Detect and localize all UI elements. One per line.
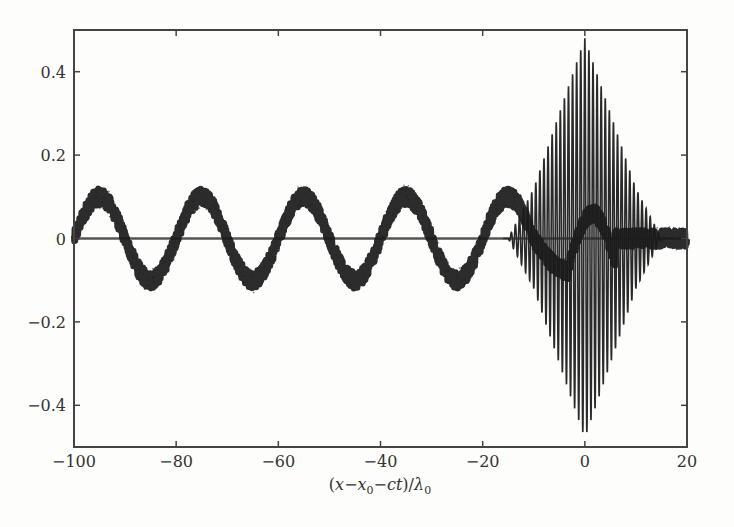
noise-dot [525, 223, 527, 225]
noise-dot [188, 220, 190, 222]
noise-dot [165, 262, 167, 264]
noise-dot [395, 199, 397, 201]
noise-dot [371, 260, 373, 262]
noise-dot [567, 262, 569, 264]
noise-dot [502, 204, 504, 206]
noise-dot [235, 267, 237, 269]
noise-dot [300, 205, 302, 207]
noise-dot [605, 236, 607, 238]
noise-dot [284, 218, 286, 220]
noise-dot [155, 281, 157, 283]
noise-dot [520, 203, 522, 205]
noise-dot [179, 225, 181, 227]
noise-dot [646, 235, 648, 237]
noise-dot [185, 209, 187, 211]
noise-dot [169, 260, 171, 262]
noise-dot [209, 208, 211, 210]
noise-dot [328, 232, 330, 234]
noise-dot [634, 229, 636, 231]
noise-dot [197, 192, 199, 194]
noise-dot [264, 266, 266, 268]
noise-dot [505, 206, 507, 208]
noise-dot [444, 259, 446, 261]
noise-dot [474, 248, 476, 250]
noise-dot [654, 235, 656, 237]
noise-dot [542, 253, 544, 255]
noise-dot [280, 239, 282, 241]
noise-dot [180, 223, 182, 225]
noise-dot [222, 224, 224, 226]
noise-dot [300, 201, 302, 203]
noise-dot [486, 220, 488, 222]
noise-dot [408, 185, 410, 187]
noise-dot [309, 190, 311, 192]
noise-dot [108, 191, 110, 193]
noise-dot [499, 191, 501, 193]
x-tick-label: −100 [52, 452, 96, 471]
noise-dot [604, 223, 606, 225]
noise-dot [595, 208, 597, 210]
noise-dot [478, 240, 480, 242]
noise-dot [476, 256, 478, 258]
noise-dot [253, 277, 255, 279]
noise-dot [257, 281, 259, 283]
noise-dot [342, 270, 344, 272]
noise-dot [557, 274, 559, 276]
noise-dot [324, 234, 326, 236]
noise-dot [233, 260, 235, 262]
noise-dot [243, 282, 245, 284]
noise-dot [408, 199, 410, 201]
noise-dot [603, 239, 605, 241]
noise-dot [480, 237, 482, 239]
noise-dot [586, 226, 588, 228]
noise-dot [595, 225, 597, 227]
noise-dot [564, 269, 566, 271]
noise-dot [548, 259, 550, 261]
noise-dot [285, 223, 287, 225]
noise-dot [593, 209, 595, 211]
noise-dot [558, 264, 560, 266]
noise-dot [592, 208, 594, 210]
noise-dot [171, 238, 173, 240]
noise-dot [229, 254, 231, 256]
noise-dot [234, 246, 236, 248]
noise-dot [441, 252, 443, 254]
noise-dot [383, 219, 385, 221]
noise-dot [193, 200, 195, 202]
noise-dot [148, 285, 150, 287]
noise-dot [220, 225, 222, 227]
noise-dot [554, 274, 556, 276]
noise-dot [275, 238, 277, 240]
noise-dot [479, 246, 481, 248]
noise-dot [641, 242, 643, 244]
noise-dot [635, 249, 637, 251]
noise-dot [637, 245, 639, 247]
noise-dot [488, 216, 490, 218]
noise-dot [515, 208, 517, 210]
noise-dot [511, 202, 513, 204]
plot-series [74, 38, 687, 432]
noise-dot [347, 281, 349, 283]
noise-dot [537, 255, 539, 257]
noise-dot [588, 225, 590, 227]
noise-dot [598, 225, 600, 227]
noise-dot [78, 232, 80, 234]
noise-dot [663, 240, 665, 242]
noise-dot [205, 201, 207, 203]
noise-dot [361, 266, 363, 268]
noise-dot [309, 210, 311, 212]
noise-dot [309, 205, 311, 207]
noise-dot [124, 241, 126, 243]
noise-dot [619, 247, 621, 249]
noise-dot [302, 205, 304, 207]
noise-dot [362, 264, 364, 266]
noise-dot [396, 204, 398, 206]
noise-dot [478, 236, 480, 238]
noise-dot [639, 241, 641, 243]
noise-dot [240, 272, 242, 274]
noise-dot [623, 234, 625, 236]
noise-dot [572, 247, 574, 249]
noise-dot [152, 282, 154, 284]
noise-dot [526, 226, 528, 228]
noise-dot [685, 228, 687, 230]
